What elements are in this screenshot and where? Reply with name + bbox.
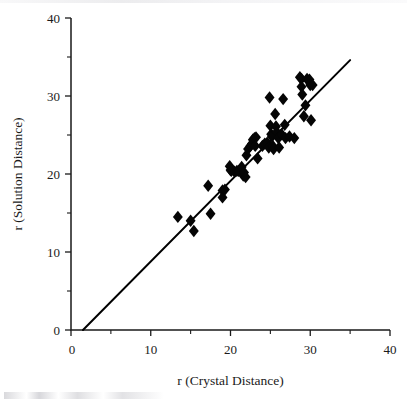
y-tick-label: 30 — [47, 89, 60, 104]
x-axis-title: r (Crystal Distance) — [177, 373, 283, 388]
y-tick-label: 20 — [47, 167, 60, 182]
data-point — [203, 180, 213, 192]
x-tick-label: 30 — [304, 342, 317, 357]
data-point — [265, 91, 275, 103]
y-tick-label: 10 — [47, 245, 60, 260]
figure-container: 102030400010203040 r (Crystal Distance)r… — [0, 0, 407, 400]
identity-reference-line — [83, 60, 350, 330]
data-point — [270, 108, 280, 120]
data-points-group — [173, 71, 318, 237]
scatter-plot: 102030400010203040 r (Crystal Distance)r… — [0, 0, 407, 400]
x-tick-label: 20 — [224, 342, 237, 357]
data-point — [278, 93, 288, 105]
y-tick-label: 40 — [47, 11, 60, 26]
x-tick-label: 10 — [144, 342, 157, 357]
x-tick-label: 40 — [384, 342, 397, 357]
reference-line — [83, 60, 350, 330]
axes-group: 102030400010203040 — [47, 11, 397, 358]
data-point — [253, 152, 263, 164]
origin-tick-label: 0 — [69, 342, 76, 357]
data-point — [173, 211, 183, 223]
data-point — [297, 88, 307, 100]
y-tick-label: 0 — [54, 323, 61, 338]
data-point — [206, 208, 216, 220]
y-axis-title: r (Solution Distance) — [10, 117, 25, 230]
